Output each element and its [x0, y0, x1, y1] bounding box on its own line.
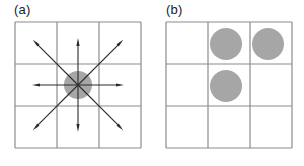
blob-row0-col1-shape	[210, 28, 242, 60]
panel-a: (a)	[0, 0, 152, 166]
blob-row1-col1-shape	[210, 70, 242, 102]
arrow-down-head	[76, 124, 79, 132]
figure-container: (a) (b)	[0, 0, 304, 166]
arrow-left-head	[32, 83, 40, 86]
panel-a-graphic	[0, 0, 152, 166]
panel-b: (b)	[152, 0, 304, 166]
arrow-right-head	[116, 83, 124, 86]
cell-blobs	[210, 28, 284, 102]
arrow-group	[32, 38, 124, 132]
arrow-up-head	[76, 38, 79, 46]
panel-b-graphic	[152, 0, 304, 166]
blob-row0-col2-shape	[252, 28, 284, 60]
